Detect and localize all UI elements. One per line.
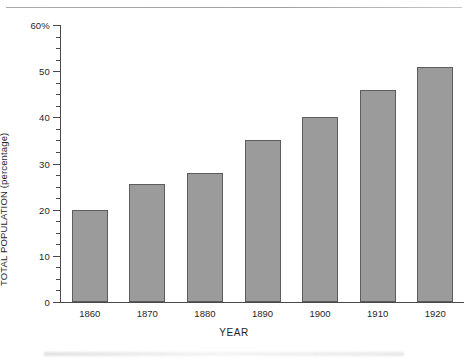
chart-page: 0102030405060% 1860187018801890190019101… xyxy=(0,0,468,359)
x-tick-label: 1910 xyxy=(367,308,388,319)
page-bottom-artifact xyxy=(44,352,404,356)
y-tick-major xyxy=(53,71,60,72)
y-tick-minor xyxy=(56,267,60,268)
bar xyxy=(245,140,281,302)
x-tick-label: 1860 xyxy=(79,308,100,319)
plot-area: 0102030405060% 1860187018801890190019101… xyxy=(60,25,464,303)
y-tick-label: 60% xyxy=(30,20,50,31)
y-axis-title: TOTAL POPULATION (percentage) xyxy=(0,86,9,286)
y-tick-minor xyxy=(56,37,60,38)
x-tick-label: 1920 xyxy=(425,308,446,319)
y-tick-minor xyxy=(56,94,60,95)
y-tick-minor xyxy=(56,244,60,245)
y-tick-minor xyxy=(56,152,60,153)
y-tick-label: 30 xyxy=(39,158,50,169)
y-tick-minor xyxy=(56,106,60,107)
y-tick-minor xyxy=(56,48,60,49)
bar xyxy=(360,90,396,302)
bar xyxy=(129,184,165,302)
y-tick-major xyxy=(53,25,60,26)
bar xyxy=(72,210,108,302)
y-tick-minor xyxy=(56,290,60,291)
y-tick-minor xyxy=(56,279,60,280)
x-axis-title: YEAR xyxy=(0,327,468,338)
y-tick-minor xyxy=(56,233,60,234)
x-tick-label: 1900 xyxy=(309,308,330,319)
x-tick-label: 1880 xyxy=(194,308,215,319)
y-tick-minor xyxy=(56,60,60,61)
y-tick-label: 20 xyxy=(39,204,50,215)
y-tick-minor xyxy=(56,140,60,141)
y-tick-major xyxy=(53,302,60,303)
bar xyxy=(417,67,453,302)
bar-series xyxy=(61,25,464,302)
y-tick-label: 0 xyxy=(45,297,50,308)
y-tick-major xyxy=(53,210,60,211)
y-tick-minor xyxy=(56,175,60,176)
y-tick-label: 50 xyxy=(39,66,50,77)
y-tick-major xyxy=(53,256,60,257)
page-top-rule xyxy=(6,7,462,8)
y-tick-major xyxy=(53,164,60,165)
y-tick-minor xyxy=(56,198,60,199)
x-tick-label: 1890 xyxy=(252,308,273,319)
y-tick-major xyxy=(53,117,60,118)
y-tick-minor xyxy=(56,221,60,222)
y-tick-label: 10 xyxy=(39,250,50,261)
bar xyxy=(187,173,223,302)
y-tick-label: 40 xyxy=(39,112,50,123)
x-tick-label: 1870 xyxy=(137,308,158,319)
y-tick-minor xyxy=(56,187,60,188)
x-axis-line xyxy=(60,302,464,303)
y-tick-minor xyxy=(56,83,60,84)
bar xyxy=(302,117,338,302)
y-tick-minor xyxy=(56,129,60,130)
